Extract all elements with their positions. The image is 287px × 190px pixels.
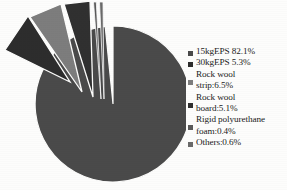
chart-legend: 15kgEPS 82.1% 30kgEPS 5.3% Rock wool str… (186, 46, 287, 149)
legend-swatch-icon (188, 51, 193, 56)
legend-swatch-icon (188, 80, 193, 85)
legend-label: Rock wool board:5.1% (196, 92, 238, 115)
legend-item-15kgeps[interactable]: 15kgEPS 82.1% (186, 46, 287, 57)
legend-label: Rigid polyurethane foam:0.4% (196, 114, 265, 137)
legend-item-others[interactable]: Others:0.6% (186, 137, 287, 148)
pie-svg (0, 0, 186, 190)
legend-item-rigid-polyurethane-foam[interactable]: Rigid polyurethane foam:0.4% (186, 114, 287, 137)
legend-swatch-icon (188, 125, 193, 130)
legend-swatch-icon (188, 62, 193, 67)
legend-swatch-icon (188, 103, 193, 108)
legend-item-rock-wool-board[interactable]: Rock wool board:5.1% (186, 92, 287, 115)
legend-label: Rock wool strip:6.5% (196, 69, 235, 92)
legend-item-30kgeps[interactable]: 30kgEPS 5.3% (186, 57, 287, 68)
legend-label: Others:0.6% (196, 137, 241, 148)
pie-chart-figure: 15kgEPS 82.1% 30kgEPS 5.3% Rock wool str… (0, 0, 287, 190)
legend-item-rock-wool-strip[interactable]: Rock wool strip:6.5% (186, 69, 287, 92)
legend-label: 30kgEPS 5.3% (196, 57, 250, 68)
legend-swatch-icon (188, 142, 193, 147)
pie-plot-area (0, 0, 186, 190)
legend-label: 15kgEPS 82.1% (196, 46, 255, 57)
